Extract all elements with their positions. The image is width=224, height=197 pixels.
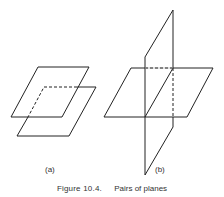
vertical-plane-upper bbox=[145, 10, 173, 68]
panel-a-label: (a) bbox=[45, 165, 55, 174]
panel-b-intersecting-planes bbox=[104, 10, 213, 175]
upper-plane bbox=[11, 67, 89, 117]
figure-title: Pairs of planes bbox=[114, 184, 167, 193]
lower-plane-edge bbox=[17, 87, 96, 136]
figure-diagram bbox=[0, 0, 224, 197]
panel-a-parallel-planes bbox=[11, 67, 96, 136]
panel-b-label: (b) bbox=[155, 165, 165, 174]
figure-number: Figure 10.4. bbox=[57, 184, 102, 193]
intersection-line bbox=[145, 68, 173, 117]
figure-caption: Figure 10.4. Pairs of planes bbox=[0, 184, 224, 193]
